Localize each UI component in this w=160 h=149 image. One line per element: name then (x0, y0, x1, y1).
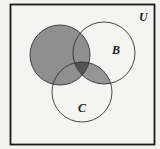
venn-diagram: U B C (0, 0, 160, 149)
set-b-label: B (111, 43, 120, 57)
set-c-label: C (78, 101, 87, 115)
universe-label: U (139, 10, 149, 24)
